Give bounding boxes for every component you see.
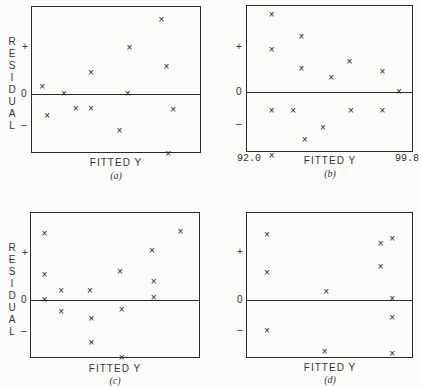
data-point-marker: ×: [388, 295, 396, 303]
data-point-marker: ×: [263, 231, 271, 239]
data-point-marker: ×: [388, 350, 396, 358]
y-tick-minus: –: [237, 324, 243, 335]
data-point-marker: ×: [377, 263, 385, 271]
plot-area: ×××××××××××: [246, 212, 413, 358]
data-point-marker: ×: [388, 235, 396, 243]
panel-d: + 0 – ××××××××××× FITTED Y (d): [0, 0, 422, 387]
x-axis-label: FITTED Y: [300, 362, 360, 373]
y-tick-plus: +: [237, 246, 243, 257]
data-point-marker: ×: [388, 314, 396, 322]
y-tick-zero: 0: [237, 294, 243, 305]
data-point-marker: ×: [263, 327, 271, 335]
data-point-marker: ×: [321, 348, 329, 356]
data-point-marker: ×: [263, 269, 271, 277]
panel-caption: (d): [310, 374, 350, 385]
data-point-marker: ×: [322, 288, 330, 296]
data-point-marker: ×: [377, 240, 385, 248]
